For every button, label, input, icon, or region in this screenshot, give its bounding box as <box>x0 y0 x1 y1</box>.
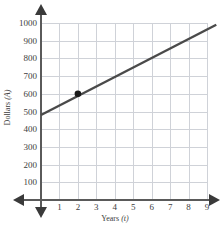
data-layer <box>0 0 222 230</box>
data-point-marker <box>75 91 82 98</box>
series-line <box>41 25 216 115</box>
line-chart: 1002003004005006007008009001000 12345678… <box>0 0 222 230</box>
